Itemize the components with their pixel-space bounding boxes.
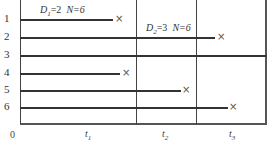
row-label-1: 1 [4,13,10,24]
row-line-4 [20,73,120,75]
interval-label-t1: t1 [85,128,91,142]
failure-x-icon: × [122,68,130,78]
row-label-5: 5 [4,84,10,95]
failure-x-icon: × [115,14,123,24]
interval-label-t2: t2 [162,128,168,142]
failure-x-icon: × [182,85,190,95]
row-label-4: 4 [4,67,10,78]
failure-x-icon: × [217,32,225,42]
failure-x-icon: × [229,102,237,112]
row-line-3 [20,55,267,57]
row-line-5 [20,90,181,92]
interval-label-t3: t3 [229,128,235,142]
annotation-d2: D2=3 N=6 [146,22,191,38]
origin-label: 0 [10,129,15,140]
row-line-6 [20,107,228,109]
annotation-d1: D1=2 N=6 [40,4,85,20]
row-label-6: 6 [4,101,10,112]
row-label-2: 2 [4,31,10,42]
row-label-3: 3 [4,49,10,60]
